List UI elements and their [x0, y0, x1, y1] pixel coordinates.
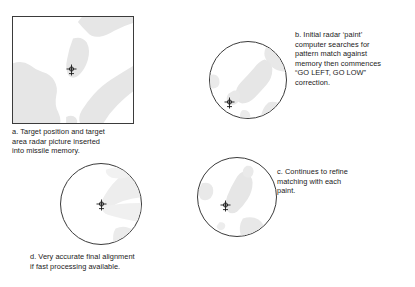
scope-c-terrain: [198, 158, 276, 236]
caption-a: a. Target position and target area radar…: [12, 127, 162, 156]
scope-d-circle: [60, 163, 142, 245]
scope-c-circle: [197, 157, 277, 237]
scope-a-square: [12, 16, 134, 124]
scope-b-terrain: [210, 42, 286, 118]
caption-c: c. Continues to refine matching with eac…: [277, 167, 402, 196]
caption-d: d. Very accurate final alignment if fast…: [30, 252, 190, 271]
caption-b: b. Initial radar ‘paint’ computer search…: [295, 30, 415, 88]
scope-b-circle: [209, 41, 287, 119]
scope-d-terrain: [61, 164, 141, 244]
figure-canvas: a. Target position and target area radar…: [0, 0, 415, 287]
scope-a-terrain: [13, 17, 133, 123]
